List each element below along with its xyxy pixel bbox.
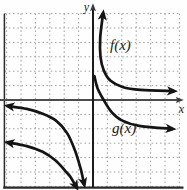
function-graph-figure: y x f(x) g(x)	[0, 0, 187, 190]
g-curve-label: g(x)	[112, 120, 136, 137]
x-axis-label: x	[178, 102, 185, 116]
axes	[0, 8, 179, 188]
y-axis-label: y	[83, 0, 90, 14]
function-graph-canvas: y x f(x) g(x)	[0, 0, 187, 190]
g-curve-branch	[8, 143, 76, 188]
f-curve-label: f(x)	[110, 37, 131, 54]
